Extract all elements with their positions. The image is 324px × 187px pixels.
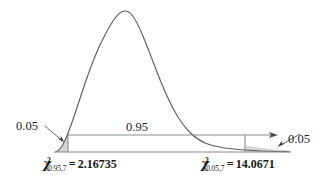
chi-square-figure: 0.05 0.95 0.05 χ20.95,7=2.16735 χ20.05,7… [0, 0, 324, 187]
confidence-level-label: 0.95 [126, 121, 148, 134]
right-tail-probability-label: 0.05 [288, 133, 310, 146]
chi-subscript-right: 0.05,7 [206, 164, 224, 173]
left-critical-value-label: χ20.95,7=2.16735 [43, 158, 117, 170]
chi-subscript-left: 0.95,7 [48, 164, 66, 173]
equals-sign-right: = [227, 157, 234, 171]
right-alpha-arrowhead [278, 141, 285, 147]
left-tail-shaded-region [55, 132, 68, 152]
equals-sign-left: = [69, 157, 76, 171]
left-alpha-leader-line [45, 126, 62, 140]
right-critical-value-number: 14.0671 [236, 157, 275, 171]
chi-square-density-curve [55, 11, 289, 152]
right-critical-value-label: χ20.05,7=14.0671 [201, 158, 275, 170]
left-tail-probability-label: 0.05 [16, 120, 38, 133]
left-critical-value-number: 2.16735 [78, 157, 117, 171]
